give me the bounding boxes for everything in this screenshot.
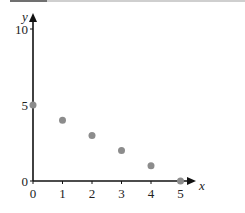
data-point [30,102,37,109]
x-tick-label: 4 [148,186,155,201]
x-tick-label: 1 [59,186,66,201]
data-point [177,178,184,185]
data-point [118,147,125,154]
data-point [89,132,96,139]
x-tick-label: 0 [30,186,37,201]
x-tick-label: 2 [89,186,96,201]
y-tick-label: 10 [15,22,28,37]
scatter-chart: xy0123450510 [0,0,245,213]
data-point [148,162,155,169]
x-axis-arrow-icon [187,177,196,185]
x-tick-label: 3 [118,186,125,201]
y-tick-label: 0 [22,174,29,189]
y-axis-arrow-icon [29,13,37,22]
y-tick-label: 5 [22,98,29,113]
x-tick-label: 5 [177,186,184,201]
x-axis-label: x [198,178,205,193]
data-point [59,117,66,124]
